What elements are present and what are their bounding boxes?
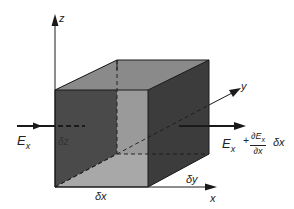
cube-diagram <box>0 0 294 209</box>
y-axis <box>209 92 234 105</box>
plus-sign: + <box>243 135 249 146</box>
z-axis-arrowhead <box>52 14 59 26</box>
outgoing-field-base: Ex <box>222 136 235 154</box>
dx-label: δx <box>95 190 107 202</box>
partial-derivative: ∂Ex ∂x <box>250 131 266 156</box>
incoming-field-label: Ex <box>17 133 30 151</box>
y-axis-label: y <box>241 80 247 92</box>
z-axis-label: z <box>59 12 65 24</box>
incoming-arrowhead <box>33 123 42 130</box>
dx-factor: δx <box>273 136 285 148</box>
x-axis-label: x <box>210 192 216 204</box>
dz-label: δz <box>58 136 69 147</box>
y-axis-arrowhead <box>229 88 241 97</box>
outgoing-arrowhead <box>234 122 246 130</box>
x-axis-arrowhead <box>205 184 217 191</box>
dy-label: δy <box>186 173 198 185</box>
